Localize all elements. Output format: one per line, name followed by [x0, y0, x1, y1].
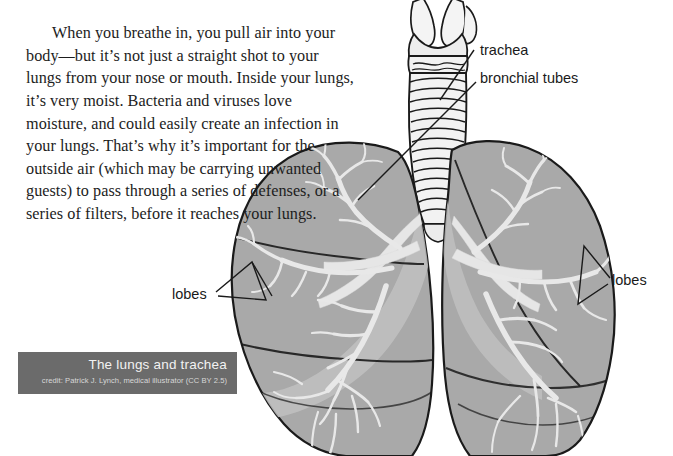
caption-title: The lungs and trachea — [18, 357, 227, 373]
right-lung — [442, 140, 615, 456]
body-paragraph: When you breathe in, you pull air into y… — [26, 22, 356, 225]
caption-credit: credit: Patrick J. Lynch, medical illust… — [18, 375, 227, 386]
label-lobes-right: lobes — [612, 272, 647, 288]
figure-caption-panel: The lungs and trachea credit: Patrick J.… — [18, 352, 237, 394]
label-bronchial-tubes: bronchial tubes — [480, 70, 578, 86]
label-lobes-left: lobes — [172, 286, 207, 302]
figure-page: When you breathe in, you pull air into y… — [0, 0, 673, 456]
label-trachea: trachea — [480, 42, 528, 58]
